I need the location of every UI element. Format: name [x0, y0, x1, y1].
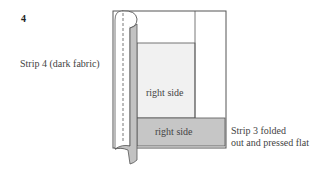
inner-panel-label: right side — [146, 87, 184, 98]
quilt-block-diagram: right side right side — [0, 0, 335, 173]
bottom-strip-label: right side — [155, 126, 193, 137]
inner-panel — [137, 43, 195, 118]
strip4-front — [115, 11, 130, 149]
